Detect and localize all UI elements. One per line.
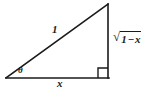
right-triangle-figure: 1 x θ √1−x [0,0,143,92]
radicand: 1−x [120,31,141,45]
base-label: x [57,78,63,89]
radicand-first-term: 1 [121,33,127,45]
triangle-shape [0,0,143,92]
angle-theta-label: θ [18,66,23,75]
radical-sign-icon: √ [113,31,120,43]
hypotenuse-label: 1 [52,24,58,35]
vertical-leg-label: √1−x [113,31,141,45]
radicand-operator: − [127,33,135,45]
radical-expression: √1−x [113,31,141,45]
right-angle-marker [98,68,108,78]
radicand-second-term: x [135,33,141,45]
